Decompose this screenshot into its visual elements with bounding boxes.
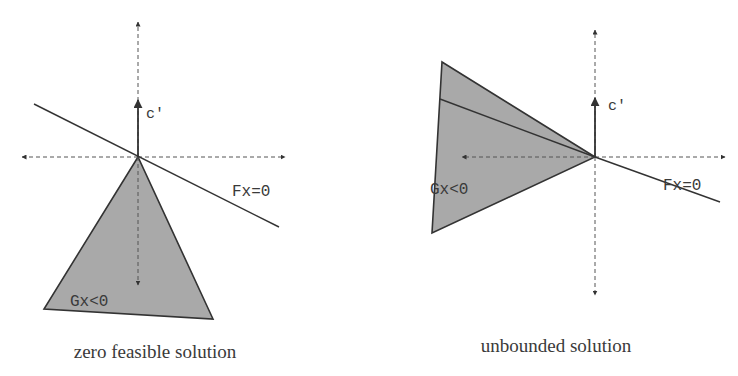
panel-zero-feasible: c′Fx=0Gx<0zero feasible solution xyxy=(22,22,285,362)
objective-label: c′ xyxy=(146,106,164,123)
constraint-line-label: Fx=0 xyxy=(663,177,701,195)
region-label: Gx<0 xyxy=(70,293,108,311)
constraint-line-label: Fx=0 xyxy=(232,183,270,201)
panel-caption: unbounded solution xyxy=(481,335,632,356)
panel-caption: zero feasible solution xyxy=(74,341,237,362)
region-label: Gx<0 xyxy=(430,181,468,199)
panel-unbounded: c′Fx=0Gx<0unbounded solution xyxy=(430,30,725,356)
objective-label: c′ xyxy=(608,98,626,115)
lp-solution-diagrams: c′Fx=0Gx<0zero feasible solutionc′Fx=0Gx… xyxy=(0,0,738,376)
